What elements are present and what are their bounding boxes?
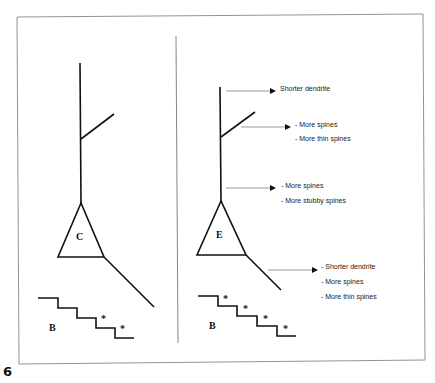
right-star-3: * — [263, 313, 268, 324]
left-staircase-label: B — [49, 322, 56, 333]
left-star-2: * — [120, 323, 125, 334]
right-neuron — [197, 87, 296, 336]
annotation-oblique-2: - More thin spines — [295, 135, 351, 143]
annotation-apical-tip: Shorter dendrite — [280, 85, 330, 92]
right-staircase-label: B — [209, 320, 216, 331]
right-star-2: * — [243, 303, 248, 314]
right-star-4: * — [283, 323, 288, 334]
arrowheads — [270, 88, 318, 273]
annotation-basal-3: - More thin spines — [321, 293, 377, 301]
left-star-1: * — [101, 313, 106, 324]
neuron-diagram: C B * * E B * * * * Shorter dendrite - M… — [0, 0, 435, 383]
annotation-trunk-1: - More spines — [281, 182, 324, 190]
annotation-arrows — [226, 91, 312, 270]
left-neuron — [38, 63, 154, 338]
figure-number: 6 — [3, 364, 12, 379]
panel-divider — [176, 36, 178, 343]
right-star-1: * — [223, 293, 228, 304]
annotation-trunk-2: - More stubby spines — [281, 197, 346, 205]
left-soma-label: C — [76, 231, 83, 242]
annotation-oblique-1: - More spines — [295, 121, 338, 129]
right-soma-label: E — [216, 229, 223, 240]
annotation-basal-1: - Shorter dendrite — [321, 263, 376, 270]
annotation-basal-2: - More spines — [321, 278, 364, 286]
